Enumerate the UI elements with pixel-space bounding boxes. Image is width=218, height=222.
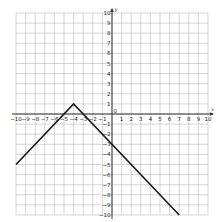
y-tick-label: −4 (102, 151, 111, 157)
axis-labels: xy (114, 6, 215, 112)
y-tick-label: 9 (107, 20, 111, 26)
axes (12, 8, 214, 219)
x-tick-label: −7 (41, 116, 50, 122)
x-tick-label: −10 (10, 116, 22, 122)
y-tick-label: 1 (107, 101, 111, 107)
x-tick-label: 6 (168, 116, 172, 122)
coordinate-plane-chart: −10−9−8−7−6−5−4−3−2−112345678910−10−9−8−… (0, 0, 218, 222)
y-tick-label: 8 (107, 30, 111, 36)
x-tick-label: 5 (158, 116, 162, 122)
x-tick-label: −4 (70, 116, 79, 122)
y-tick-label: 4 (107, 71, 111, 77)
x-tick-label: 1 (120, 116, 124, 122)
x-tick-label: 9 (197, 116, 201, 122)
y-tick-label: −7 (102, 182, 111, 188)
y-tick-label: −10 (99, 212, 111, 218)
y-tick-label: 7 (107, 40, 111, 46)
y-tick-label: −6 (102, 172, 111, 178)
x-tick-label: −8 (31, 116, 40, 122)
y-tick-label: 10 (104, 10, 111, 16)
x-tick-label: 10 (205, 116, 212, 122)
x-tick-label: 2 (129, 116, 133, 122)
y-tick-label: −9 (102, 202, 111, 208)
y-tick-label: −8 (102, 192, 111, 198)
x-axis-label: x (211, 106, 214, 112)
x-tick-label: 7 (177, 116, 181, 122)
x-tick-label: 8 (187, 116, 191, 122)
y-tick-label: 6 (107, 50, 111, 56)
x-tick-label: 4 (149, 116, 153, 122)
y-tick-label: −1 (102, 121, 110, 127)
y-tick-label: 2 (107, 91, 111, 97)
y-axis-arrow-icon (110, 8, 114, 12)
x-tick-label: −9 (22, 116, 31, 122)
y-axis-label: y (114, 6, 118, 13)
x-tick-label: 3 (139, 116, 143, 122)
origin-label: 0 (114, 108, 118, 114)
y-tick-label: 3 (107, 81, 111, 87)
y-tick-label: 5 (107, 61, 111, 67)
y-tick-label: −5 (102, 162, 111, 168)
